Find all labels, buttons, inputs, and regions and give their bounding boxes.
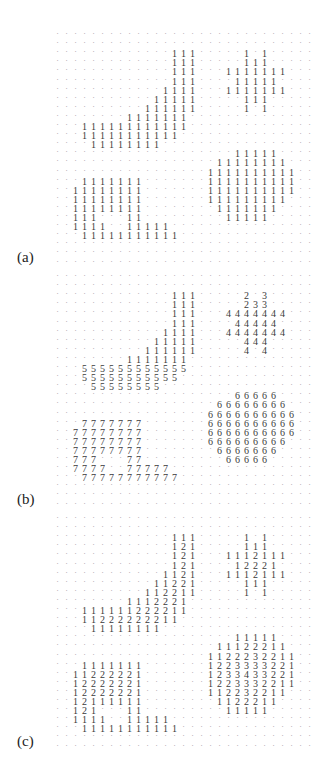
empty-cell: · — [152, 743, 161, 752]
empty-cell: · — [242, 501, 251, 510]
empty-cell: · — [269, 743, 278, 752]
empty-cell: · — [116, 259, 125, 268]
empty-cell: · — [251, 259, 260, 268]
empty-cell: · — [215, 259, 224, 268]
empty-cell: · — [242, 259, 251, 268]
empty-cell: · — [260, 743, 269, 752]
panel-label-c: (c) — [17, 733, 34, 750]
empty-cell: · — [125, 501, 134, 510]
empty-cell: · — [53, 259, 62, 268]
empty-cell: · — [107, 743, 116, 752]
empty-cell: · — [71, 743, 80, 752]
empty-cell: · — [224, 501, 233, 510]
empty-cell: · — [98, 501, 107, 510]
empty-cell: · — [143, 501, 152, 510]
empty-cell: · — [269, 501, 278, 510]
empty-cell: · — [197, 501, 206, 510]
empty-cell: · — [152, 259, 161, 268]
empty-cell: · — [233, 501, 242, 510]
empty-cell: · — [134, 501, 143, 510]
empty-cell: · — [251, 501, 260, 510]
empty-cell: · — [179, 259, 188, 268]
empty-cell: · — [152, 501, 161, 510]
empty-cell: · — [188, 743, 197, 752]
empty-cell: · — [134, 259, 143, 268]
empty-cell: · — [116, 743, 125, 752]
empty-cell: · — [287, 259, 296, 268]
panel-label-b: (b) — [17, 491, 35, 508]
empty-cell: · — [62, 743, 71, 752]
empty-cell: · — [170, 259, 179, 268]
empty-cell: · — [215, 501, 224, 510]
empty-cell: · — [251, 743, 260, 752]
empty-cell: · — [107, 501, 116, 510]
empty-cell: · — [206, 501, 215, 510]
empty-cell: · — [125, 743, 134, 752]
empty-cell: · — [224, 259, 233, 268]
empty-cell: · — [296, 501, 305, 510]
empty-cell: · — [89, 743, 98, 752]
empty-cell: · — [80, 743, 89, 752]
empty-cell: · — [89, 259, 98, 268]
empty-cell: · — [305, 501, 314, 510]
empty-cell: · — [296, 743, 305, 752]
empty-cell: · — [278, 501, 287, 510]
empty-cell: · — [125, 259, 134, 268]
empty-cell: · — [242, 743, 251, 752]
empty-cell: · — [71, 259, 80, 268]
empty-cell: · — [98, 259, 107, 268]
empty-cell: · — [287, 743, 296, 752]
empty-cell: · — [206, 259, 215, 268]
empty-cell: · — [224, 743, 233, 752]
empty-cell: · — [206, 743, 215, 752]
empty-cell: · — [233, 743, 242, 752]
empty-cell: · — [305, 259, 314, 268]
empty-cell: · — [215, 743, 224, 752]
empty-cell: · — [134, 743, 143, 752]
empty-cell: · — [170, 501, 179, 510]
empty-cell: · — [188, 259, 197, 268]
empty-cell: · — [233, 259, 242, 268]
empty-cell: · — [260, 259, 269, 268]
empty-cell: · — [305, 743, 314, 752]
empty-cell: · — [269, 259, 278, 268]
empty-cell: · — [296, 259, 305, 268]
empty-cell: · — [197, 743, 206, 752]
empty-cell: · — [278, 743, 287, 752]
empty-cell: · — [260, 501, 269, 510]
empty-cell: · — [62, 501, 71, 510]
empty-cell: · — [179, 501, 188, 510]
empty-cell: · — [170, 743, 179, 752]
empty-cell: · — [71, 501, 80, 510]
empty-cell: · — [116, 501, 125, 510]
empty-cell: · — [287, 501, 296, 510]
empty-cell: · — [89, 501, 98, 510]
empty-cell: · — [107, 259, 116, 268]
empty-cell: · — [179, 743, 188, 752]
empty-cell: · — [188, 501, 197, 510]
empty-cell: · — [53, 743, 62, 752]
empty-cell: · — [80, 259, 89, 268]
empty-cell: · — [80, 501, 89, 510]
empty-cell: · — [161, 501, 170, 510]
empty-cell: · — [143, 743, 152, 752]
empty-cell: · — [62, 259, 71, 268]
empty-cell: · — [161, 743, 170, 752]
empty-cell: · — [161, 259, 170, 268]
empty-cell: · — [53, 501, 62, 510]
panel-label-a: (a) — [17, 249, 34, 266]
empty-cell: · — [143, 259, 152, 268]
empty-cell: · — [278, 259, 287, 268]
empty-cell: · — [197, 259, 206, 268]
empty-cell: · — [98, 743, 107, 752]
